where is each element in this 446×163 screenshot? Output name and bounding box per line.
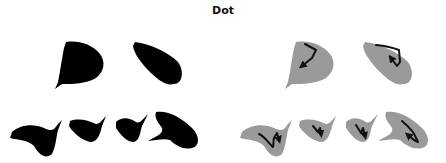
figure-canvas xyxy=(0,0,446,163)
trajectory-panel xyxy=(240,42,428,157)
gray-shape-6 xyxy=(378,112,428,149)
silhouette-shape-4 xyxy=(69,116,106,142)
silhouette-shape-2 xyxy=(133,42,182,84)
silhouette-shape-6 xyxy=(148,112,198,149)
gray-shape-1 xyxy=(285,42,333,90)
gray-shape-2 xyxy=(363,42,412,84)
silhouette-panel xyxy=(10,42,198,157)
gray-shape-4 xyxy=(299,116,336,142)
silhouette-shape-5 xyxy=(116,114,148,142)
silhouette-shape-1 xyxy=(55,42,103,90)
silhouette-shape-3 xyxy=(10,120,62,156)
